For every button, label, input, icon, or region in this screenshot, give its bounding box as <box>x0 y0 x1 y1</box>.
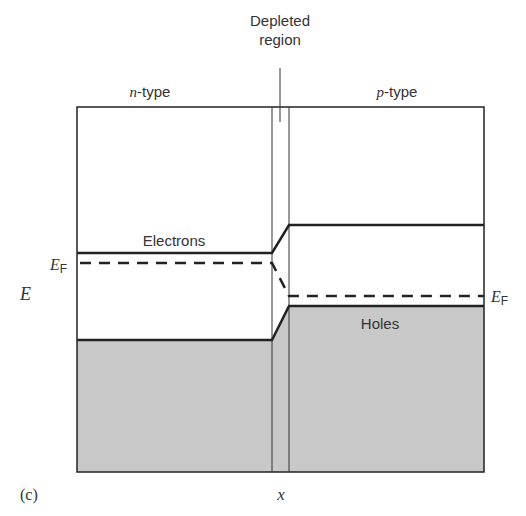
p-type-label: p-type <box>376 83 418 100</box>
depletion-label-line1: Depleted <box>250 12 310 29</box>
depletion-label-line2: region <box>259 31 301 48</box>
pn-junction-band-diagram: Depleted region n-type p-type Electrons … <box>0 0 526 516</box>
position-axis-label: x <box>276 485 285 504</box>
energy-axis-label: E <box>19 284 31 304</box>
fermi-label-right: EF <box>490 288 508 308</box>
n-type-label: n-type <box>130 83 171 100</box>
holes-label: Holes <box>361 315 399 332</box>
conduction-band-edge <box>77 225 484 253</box>
fermi-label-left: EF <box>49 256 67 276</box>
fermi-level <box>80 263 484 296</box>
electrons-label: Electrons <box>143 232 206 249</box>
panel-label: (c) <box>20 486 38 504</box>
valence-band-fill <box>77 306 484 472</box>
